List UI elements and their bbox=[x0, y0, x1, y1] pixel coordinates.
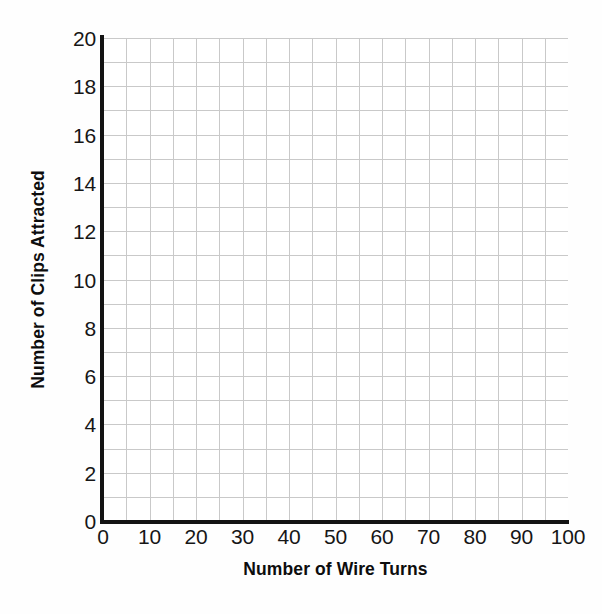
x-tick-label: 100 bbox=[536, 526, 600, 547]
x-axis-tick-labels: 0102030405060708090100 bbox=[0, 0, 602, 614]
chart-figure: 02468101214161820 0102030405060708090100… bbox=[0, 0, 602, 614]
x-axis-title: Number of Wire Turns bbox=[103, 559, 568, 580]
y-axis-title: Number of Clips Attracted bbox=[28, 50, 49, 510]
